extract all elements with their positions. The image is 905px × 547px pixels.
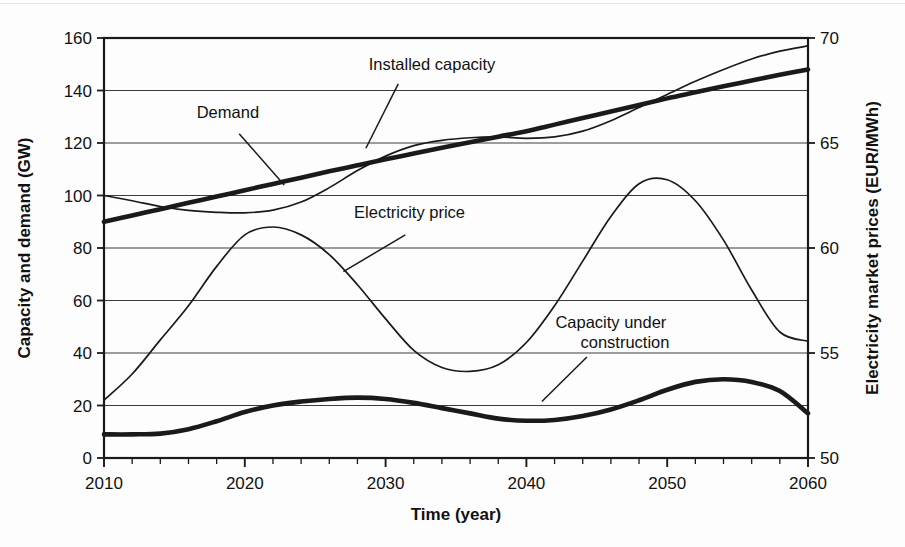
y2-tick-label: 55 bbox=[820, 344, 839, 363]
x-tick-label: 2020 bbox=[226, 474, 264, 493]
annotation-label: Electricity price bbox=[354, 203, 465, 221]
y-tick-label: 20 bbox=[73, 397, 92, 416]
annotation-leader-line bbox=[366, 84, 398, 148]
annotation-leader-line bbox=[542, 357, 587, 402]
y2-tick-label: 50 bbox=[820, 449, 839, 468]
annotation-leader-line bbox=[343, 235, 405, 272]
x-tick-label: 2060 bbox=[789, 474, 827, 493]
y2-tick-label: 70 bbox=[820, 29, 839, 48]
x-tick-label: 2050 bbox=[648, 474, 686, 493]
y-tick-label: 80 bbox=[73, 239, 92, 258]
series-line-capacity-under-construction bbox=[104, 379, 808, 434]
chart-figure: 0204060801001201401605055606570201020202… bbox=[0, 0, 905, 547]
x-tick-label: 2040 bbox=[507, 474, 545, 493]
y2-axis-title: Electricity market prices (EUR/MWh) bbox=[863, 101, 882, 395]
y-tick-label: 100 bbox=[64, 187, 92, 206]
y-axis-title: Capacity and demand (GW) bbox=[15, 137, 34, 358]
annotation-label: Demand bbox=[197, 103, 259, 121]
y-tick-label: 60 bbox=[73, 292, 92, 311]
y-tick-label: 160 bbox=[64, 29, 92, 48]
x-axis-title: Time (year) bbox=[411, 505, 501, 524]
x-tick-label: 2010 bbox=[85, 474, 123, 493]
annotation-leader-line bbox=[239, 134, 284, 185]
annotation-label: Capacity under bbox=[555, 313, 666, 331]
x-tick-label: 2030 bbox=[367, 474, 405, 493]
y2-tick-label: 60 bbox=[820, 239, 839, 258]
annotation-label: Installed capacity bbox=[369, 55, 496, 73]
y-tick-label: 140 bbox=[64, 82, 92, 101]
annotation-label: construction bbox=[580, 333, 669, 351]
y-tick-label: 0 bbox=[83, 449, 92, 468]
y2-tick-label: 65 bbox=[820, 134, 839, 153]
y-tick-label: 40 bbox=[73, 344, 92, 363]
y-tick-label: 120 bbox=[64, 134, 92, 153]
line-chart: 0204060801001201401605055606570201020202… bbox=[0, 0, 905, 547]
series-line-demand bbox=[104, 70, 808, 222]
